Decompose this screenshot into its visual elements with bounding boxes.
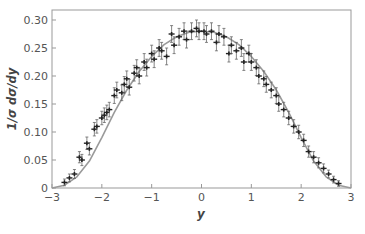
data-point (189, 23, 195, 40)
x-axis: −3−2−10123 (44, 184, 355, 204)
x-tick-label: −2 (94, 191, 110, 204)
x-tick-label: −1 (144, 191, 160, 204)
chart: −3−2−10123 00.050.100.150.200.250.30 y 1… (0, 0, 365, 234)
data-points (61, 20, 341, 186)
y-tick-label: 0 (41, 182, 48, 195)
data-point (286, 111, 292, 124)
x-axis-label: y (197, 207, 206, 221)
data-point (291, 120, 297, 133)
theory-curve-path (52, 31, 351, 188)
y-tick-label: 0.15 (24, 98, 49, 111)
data-point (208, 23, 214, 40)
y-axis-label: 1/σ dσ/dy (5, 67, 19, 130)
data-point (221, 28, 227, 45)
x-tick-label: 0 (198, 191, 205, 204)
theory-curve (52, 31, 351, 188)
x-tick-label: 3 (348, 191, 355, 204)
plot-frame (52, 10, 351, 188)
y-axis: 00.050.100.150.200.250.30 (24, 14, 57, 195)
data-point (316, 158, 322, 168)
data-point (331, 176, 337, 183)
y-tick-label: 0.20 (24, 70, 49, 83)
y-tick-label: 0.30 (24, 14, 49, 27)
y-tick-label: 0.10 (24, 126, 49, 139)
x-tick-label: 1 (248, 191, 255, 204)
y-tick-label: 0.05 (24, 154, 49, 167)
data-point (311, 152, 317, 163)
x-tick-label: 2 (298, 191, 305, 204)
y-tick-label: 0.25 (24, 42, 49, 55)
